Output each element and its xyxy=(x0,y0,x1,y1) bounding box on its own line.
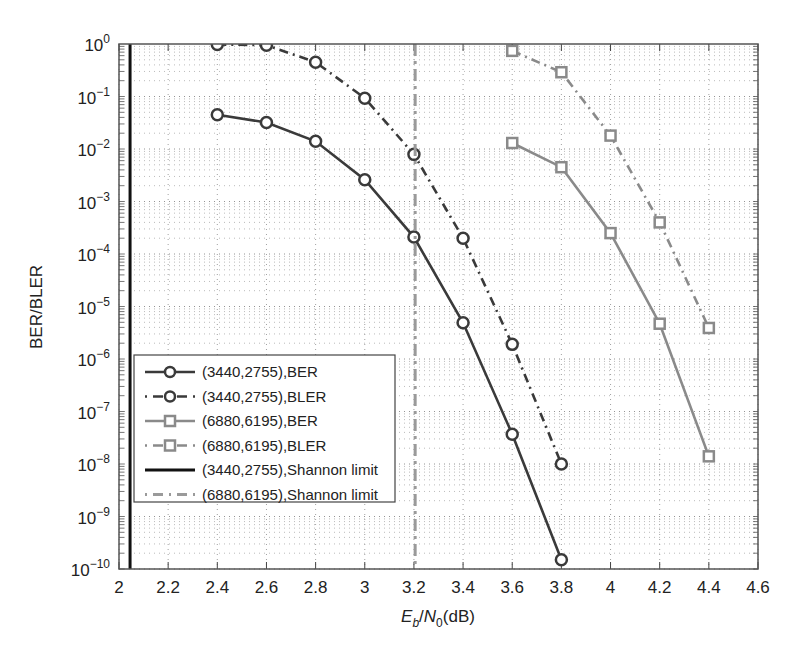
x-tick-label: 2.2 xyxy=(156,578,180,597)
y-tick-label: 10−6 xyxy=(77,347,110,370)
data-point xyxy=(507,429,518,440)
data-point xyxy=(310,57,321,68)
data-point xyxy=(507,46,517,56)
data-point xyxy=(359,174,370,185)
data-point xyxy=(655,319,665,329)
legend-marker-square-icon xyxy=(165,441,175,451)
x-tick-label: 4.4 xyxy=(697,578,721,597)
legend-marker-square-icon xyxy=(165,416,175,426)
legend-label: (6880,6195),BER xyxy=(202,412,318,429)
y-tick-label: 10−9 xyxy=(77,505,110,528)
y-axis-ticks: 10010−110−210−310−410−510−610−710−810−91… xyxy=(71,32,111,580)
y-tick-label: 10−3 xyxy=(77,190,110,213)
data-point xyxy=(704,451,714,461)
x-tick-label: 3 xyxy=(360,578,369,597)
x-tick-label: 3.8 xyxy=(550,578,574,597)
x-tick-label: 3.4 xyxy=(451,578,475,597)
y-axis-title: BER/BLER xyxy=(27,265,46,349)
legend-label: (6880,6195),BLER xyxy=(202,437,326,454)
data-point xyxy=(606,131,616,141)
data-point xyxy=(359,93,370,104)
data-point xyxy=(556,162,566,172)
x-tick-label: 4 xyxy=(606,578,615,597)
y-tick-label: 10−4 xyxy=(77,242,110,265)
data-point xyxy=(556,67,566,77)
y-tick-label: 10−1 xyxy=(77,85,110,108)
data-point xyxy=(310,136,321,147)
y-tick-label: 100 xyxy=(84,32,110,55)
legend-label: (6880,6195),Shannon limit xyxy=(202,486,379,503)
y-tick-label: 10−8 xyxy=(77,452,110,475)
x-tick-label: 4.2 xyxy=(648,578,672,597)
data-point xyxy=(606,228,616,238)
legend-label: (3440,2755),BER xyxy=(202,363,318,380)
x-tick-label: 2.8 xyxy=(304,578,328,597)
y-tick-label: 10−7 xyxy=(77,400,110,423)
x-tick-label: 4.6 xyxy=(746,578,770,597)
data-point xyxy=(212,109,223,120)
x-tick-label: 3.2 xyxy=(402,578,426,597)
legend-label: (3440,2755),Shannon limit xyxy=(202,461,379,478)
legend-marker-circle-icon xyxy=(165,392,175,402)
y-tick-label: 10−10 xyxy=(71,557,111,580)
x-tick-label: 2.6 xyxy=(255,578,279,597)
legend-label: (3440,2755),BLER xyxy=(202,388,326,405)
data-point xyxy=(507,138,517,148)
data-point xyxy=(458,233,469,244)
data-point xyxy=(556,459,567,470)
data-point xyxy=(556,554,567,565)
x-tick-label: 2.4 xyxy=(205,578,229,597)
data-point xyxy=(507,339,518,350)
y-tick-label: 10−5 xyxy=(77,295,110,318)
data-point xyxy=(704,323,714,333)
ber-bler-chart: 22.22.42.62.833.23.43.63.844.24.44.6 100… xyxy=(0,0,812,663)
x-tick-label: 3.6 xyxy=(500,578,524,597)
y-tick-label: 10−2 xyxy=(77,137,110,160)
x-axis-title: Eb/N0(dB) xyxy=(401,607,475,630)
data-point xyxy=(261,117,272,128)
data-point xyxy=(655,217,665,227)
legend: (3440,2755),BER(3440,2755),BLER(6880,619… xyxy=(134,355,395,503)
data-point xyxy=(458,317,469,328)
data-point xyxy=(261,40,272,51)
legend-marker-circle-icon xyxy=(165,367,175,377)
x-tick-label: 2 xyxy=(114,578,123,597)
